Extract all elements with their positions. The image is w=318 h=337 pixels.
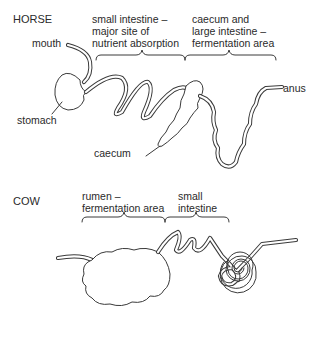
horse-caecum — [158, 81, 203, 147]
horse-stomach-pointer — [52, 102, 62, 114]
digestive-tract-diagram — [0, 0, 318, 337]
cow-small-intestine-brace — [165, 212, 229, 222]
cow-esophagus — [58, 256, 92, 260]
horse-small-intestine-brace — [96, 50, 185, 60]
horse-large-intestine — [200, 87, 282, 167]
horse-large-intestine-brace — [185, 50, 276, 60]
cow-rumen-brace — [82, 212, 165, 222]
cow-rumen — [82, 248, 170, 305]
horse-small-intestine — [86, 77, 186, 119]
cow-small-intestine — [158, 232, 296, 284]
horse-caecum-pointer — [146, 146, 160, 156]
